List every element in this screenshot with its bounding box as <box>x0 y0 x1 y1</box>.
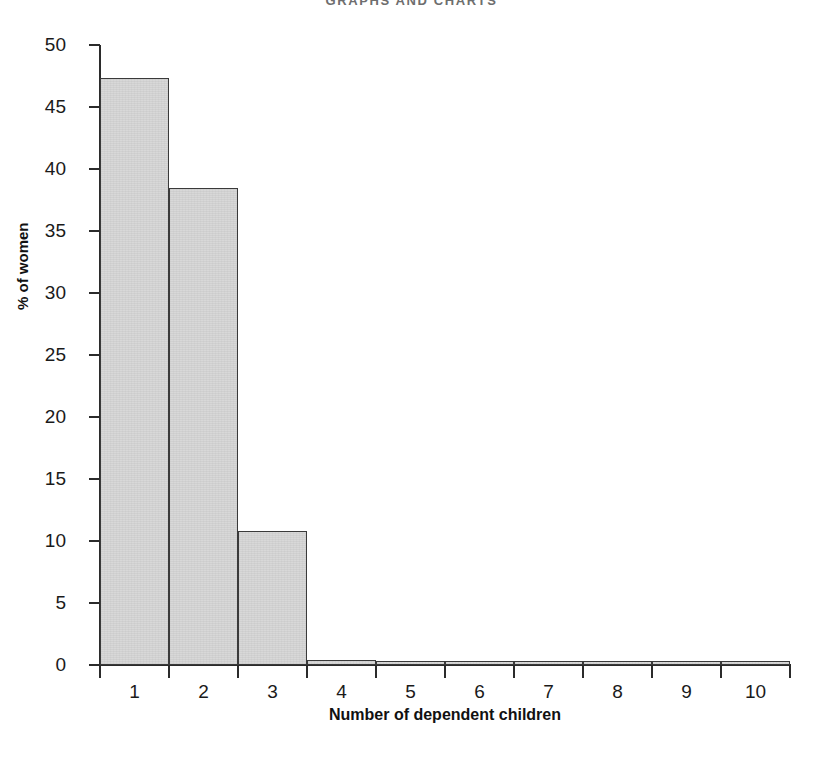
x-axis-tick <box>168 666 170 678</box>
y-axis-tick-label: 25 <box>20 344 66 366</box>
x-axis-tick-label: 4 <box>322 681 362 703</box>
histogram-bar <box>100 78 169 665</box>
y-axis-tick-label: 5 <box>20 592 66 614</box>
y-axis-tick-label: 50 <box>20 34 66 56</box>
histogram-bar <box>514 661 583 665</box>
x-axis-tick-label: 6 <box>460 681 500 703</box>
histogram-bar <box>652 661 721 665</box>
histogram-bar <box>721 661 790 665</box>
x-axis-title: Number of dependent children <box>100 706 790 724</box>
x-axis-tick-label: 9 <box>667 681 707 703</box>
y-axis-tick <box>89 478 100 480</box>
x-axis-tick-label: 3 <box>253 681 293 703</box>
histogram-bar <box>169 188 238 665</box>
histogram-bar <box>376 661 445 665</box>
plot-area <box>100 45 790 665</box>
y-axis-title: % of women <box>14 222 31 310</box>
y-axis-tick-label: 40 <box>20 158 66 180</box>
y-axis-tick-label: 45 <box>20 96 66 118</box>
x-axis-tick <box>99 666 101 678</box>
x-axis-tick <box>720 666 722 678</box>
y-axis-tick <box>89 44 100 46</box>
x-axis-tick-label: 5 <box>391 681 431 703</box>
histogram-figure: 05101520253035404550 12345678910 % of wo… <box>0 0 823 765</box>
y-axis-tick <box>89 540 100 542</box>
histogram-bar <box>445 661 514 665</box>
y-axis-tick-label: 15 <box>20 468 66 490</box>
y-axis-tick <box>89 230 100 232</box>
x-axis-tick <box>582 666 584 678</box>
x-axis-tick-label: 2 <box>184 681 224 703</box>
histogram-bar <box>583 661 652 665</box>
x-axis-tick <box>237 666 239 678</box>
y-axis-tick-label: 20 <box>20 406 66 428</box>
histogram-bar <box>307 660 376 665</box>
y-axis-tick <box>89 292 100 294</box>
y-axis-tick-label: 10 <box>20 530 66 552</box>
x-axis-tick <box>306 666 308 678</box>
y-axis-tick-label: 0 <box>20 654 66 676</box>
y-axis-tick <box>89 416 100 418</box>
x-axis-tick <box>444 666 446 678</box>
x-axis-tick <box>513 666 515 678</box>
x-axis-tick <box>375 666 377 678</box>
y-axis-tick <box>89 106 100 108</box>
x-axis-tick <box>789 666 791 678</box>
x-axis-tick-label: 7 <box>529 681 569 703</box>
x-axis-tick-label: 1 <box>115 681 155 703</box>
histogram-bar <box>238 531 307 665</box>
y-axis-tick <box>89 354 100 356</box>
y-axis-tick <box>89 168 100 170</box>
x-axis-tick-label: 8 <box>598 681 638 703</box>
x-axis-tick-label: 10 <box>736 681 776 703</box>
y-axis-tick <box>89 602 100 604</box>
x-axis-tick <box>651 666 653 678</box>
